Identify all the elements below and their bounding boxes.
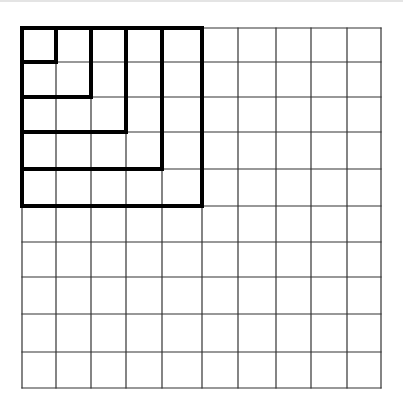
bold-square-5x5 xyxy=(22,28,202,206)
nested-squares-grid xyxy=(0,0,403,405)
bold-square-3x3 xyxy=(22,28,126,132)
bold-square-1x1 xyxy=(22,28,56,62)
